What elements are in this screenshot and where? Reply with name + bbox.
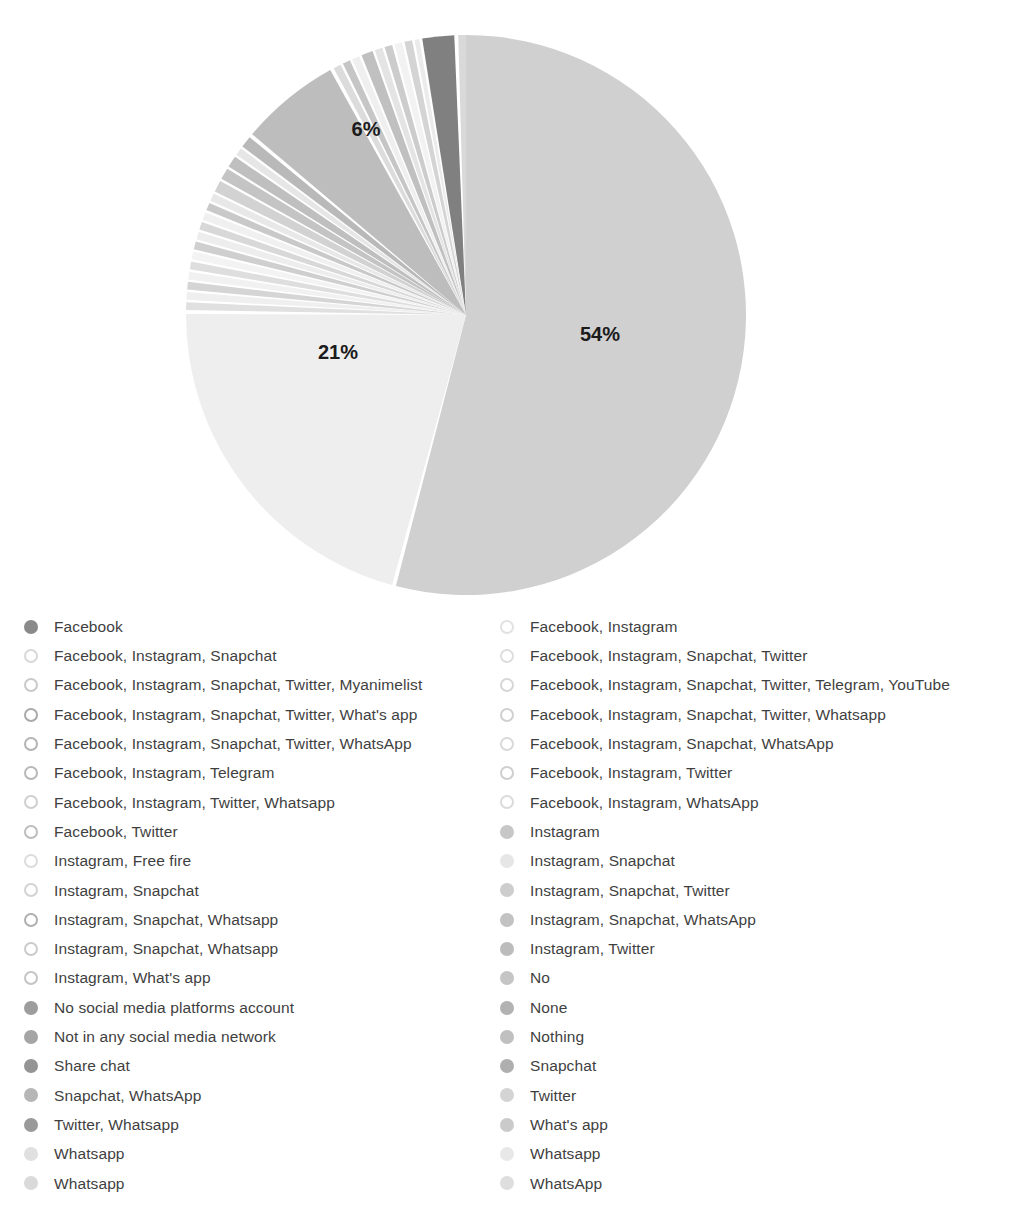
legend-item-label: Instagram, Twitter [530,941,655,957]
pie-slices-group [186,35,746,595]
pie-slice-value-label: 21% [318,341,358,363]
legend-item[interactable]: Twitter [500,1081,1026,1110]
legend-item[interactable]: What's app [500,1110,1026,1139]
legend-item-label: WhatsApp [530,1176,602,1192]
legend-color-swatch-icon [500,737,514,751]
legend-item-label: Whatsapp [530,1146,601,1162]
legend-item-label: Twitter, Whatsapp [54,1117,179,1133]
legend-item-label: Facebook, Instagram, Snapchat, Twitter, … [530,677,950,693]
legend-item[interactable]: Facebook, Instagram [500,612,1026,641]
legend-color-swatch-icon [24,913,38,927]
legend-item-label: Facebook, Instagram, Snapchat, Twitter, … [530,707,886,723]
legend-item[interactable]: Twitter, Whatsapp [24,1110,492,1139]
legend-item-label: No social media platforms account [54,1000,294,1016]
legend-color-swatch-icon [24,678,38,692]
legend-item[interactable]: Instagram, Snapchat, WhatsApp [500,905,1026,934]
legend-item[interactable]: Facebook, Twitter [24,817,492,846]
legend-item[interactable]: Instagram [500,817,1026,846]
legend-color-swatch-icon [500,1030,514,1044]
legend-item-label: Whatsapp [54,1146,125,1162]
legend-item[interactable]: Instagram, Snapchat [24,876,492,905]
legend-color-swatch-icon [24,620,38,634]
legend-columns: FacebookFacebook, Instagram, SnapchatFac… [0,612,1026,1198]
legend-item[interactable]: Nothing [500,1022,1026,1051]
legend-color-swatch-icon [24,942,38,956]
legend-item-label: Facebook, Instagram [530,619,678,635]
legend-item[interactable]: Facebook, Instagram, Snapchat [24,641,492,670]
legend-item-label: Instagram, Snapchat, Whatsapp [54,912,278,928]
legend-color-swatch-icon [24,649,38,663]
legend-item[interactable]: Facebook, Instagram, Telegram [24,758,492,787]
legend-item-label: Facebook, Instagram, Snapchat, Twitter, … [54,736,412,752]
legend-item[interactable]: Instagram, Snapchat, Twitter [500,876,1026,905]
legend-color-swatch-icon [500,913,514,927]
legend-item-label: Instagram, Snapchat, WhatsApp [530,912,756,928]
legend-item[interactable]: Whatsapp [24,1139,492,1168]
legend-color-swatch-icon [24,766,38,780]
legend-color-swatch-icon [24,1176,38,1190]
legend-item[interactable]: Facebook, Instagram, Snapchat, Twitter, … [500,700,1026,729]
pie-chart-svg: 54%21%6% [0,0,1026,612]
legend-item[interactable]: Facebook, Instagram, Snapchat, Twitter, … [24,700,492,729]
legend-item[interactable]: Facebook [24,612,492,641]
legend-item-label: Facebook, Instagram, Snapchat [54,648,277,664]
legend-item-label: None [530,1000,567,1016]
legend-item-label: Facebook, Instagram, Telegram [54,765,275,781]
legend-item[interactable]: Whatsapp [500,1139,1026,1168]
legend-item[interactable]: Instagram, Snapchat [500,846,1026,875]
legend-item-label: Nothing [530,1029,584,1045]
legend-color-swatch-icon [500,1088,514,1102]
legend-item-label: Instagram, Snapchat, Twitter [530,883,730,899]
legend-item[interactable]: No [500,964,1026,993]
legend-item[interactable]: No social media platforms account [24,993,492,1022]
legend-column-right: Facebook, InstagramFacebook, Instagram, … [492,612,1026,1198]
legend-color-swatch-icon [500,1059,514,1073]
legend-color-swatch-icon [500,942,514,956]
legend-item-label: Twitter [530,1088,576,1104]
legend-item[interactable]: Facebook, Instagram, Twitter [500,758,1026,787]
legend-item-label: Facebook, Instagram, Snapchat, Twitter [530,648,808,664]
legend-item[interactable]: None [500,993,1026,1022]
legend-color-swatch-icon [500,1176,514,1190]
legend-item[interactable]: Facebook, Instagram, Snapchat, Twitter, … [500,671,1026,700]
legend-item[interactable]: Facebook, Instagram, Snapchat, Twitter, … [24,729,492,758]
legend-color-swatch-icon [24,708,38,722]
legend-item[interactable]: Snapchat [500,1051,1026,1080]
legend-item-label: Facebook, Instagram, Snapchat, Twitter, … [54,707,418,723]
legend-item[interactable]: Instagram, Free fire [24,846,492,875]
legend-item[interactable]: Instagram, Snapchat, Whatsapp [24,934,492,963]
legend-color-swatch-icon [500,1147,514,1161]
legend-item[interactable]: Facebook, Instagram, Twitter, Whatsapp [24,788,492,817]
legend-item-label: Facebook, Instagram, WhatsApp [530,795,759,811]
legend-item[interactable]: Whatsapp [24,1169,492,1198]
legend-item[interactable]: Instagram, What's app [24,964,492,993]
legend-item[interactable]: Snapchat, WhatsApp [24,1081,492,1110]
legend-color-swatch-icon [24,825,38,839]
legend-color-swatch-icon [24,854,38,868]
legend-color-swatch-icon [500,1001,514,1015]
legend-item-label: Instagram [530,824,600,840]
legend-color-swatch-icon [24,795,38,809]
legend-item[interactable]: Share chat [24,1051,492,1080]
legend-color-swatch-icon [500,649,514,663]
legend-color-swatch-icon [500,825,514,839]
legend-item-label: Instagram, Snapchat, Whatsapp [54,941,278,957]
legend-item[interactable]: Instagram, Snapchat, Whatsapp [24,905,492,934]
legend-item[interactable]: Not in any social media network [24,1022,492,1051]
pie-slice-value-label: 54% [580,323,620,345]
legend-item[interactable]: Facebook, Instagram, Snapchat, Twitter, … [24,671,492,700]
legend-item[interactable]: Facebook, Instagram, Snapchat, Twitter [500,641,1026,670]
legend-color-swatch-icon [500,883,514,897]
pie-chart-area: 54%21%6% [0,0,1026,612]
legend-color-swatch-icon [24,1059,38,1073]
legend-item[interactable]: Instagram, Twitter [500,934,1026,963]
legend-color-swatch-icon [500,678,514,692]
legend-color-swatch-icon [24,1088,38,1102]
legend-item[interactable]: Facebook, Instagram, WhatsApp [500,788,1026,817]
legend-item-label: Instagram, What's app [54,970,211,986]
legend-item[interactable]: WhatsApp [500,1169,1026,1198]
legend-column-left: FacebookFacebook, Instagram, SnapchatFac… [0,612,492,1198]
legend-item-label: Instagram, Snapchat [54,883,199,899]
legend-item[interactable]: Facebook, Instagram, Snapchat, WhatsApp [500,729,1026,758]
legend-item-label: No [530,970,550,986]
